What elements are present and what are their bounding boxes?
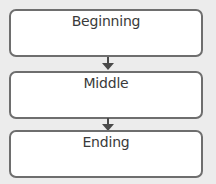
middle-label: Middle	[11, 75, 201, 91]
ending-label: Ending	[11, 134, 201, 150]
middle-box: Middle	[9, 71, 203, 119]
beginning-label: Beginning	[11, 13, 201, 29]
ending-box: Ending	[9, 130, 203, 178]
arrow-down-icon	[102, 57, 114, 71]
arrow-head	[102, 63, 114, 70]
beginning-box: Beginning	[9, 9, 203, 57]
